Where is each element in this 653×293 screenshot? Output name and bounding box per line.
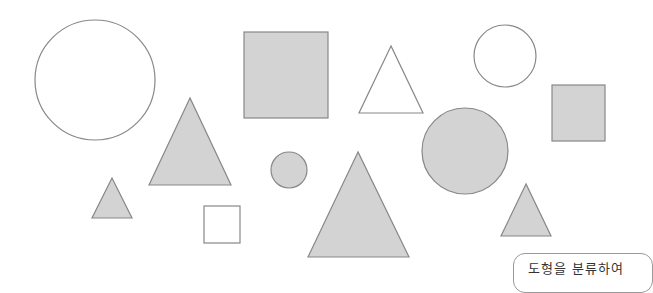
gray-circle-10 [271, 152, 307, 188]
gray-triangle-12 [501, 184, 551, 236]
white-circle-5 [474, 25, 536, 87]
gray-triangle-11 [308, 152, 409, 257]
caption-text: 도형을 분류하여 [528, 258, 624, 277]
white-triangle-4 [359, 46, 423, 113]
gray-triangle-8 [92, 178, 132, 218]
white-circle-1 [35, 20, 155, 140]
gray-circle-7 [422, 108, 508, 194]
gray-square-3 [244, 32, 328, 118]
gray-square-6 [552, 85, 605, 141]
white-square-9 [204, 206, 240, 243]
gray-triangle-2 [149, 98, 231, 185]
